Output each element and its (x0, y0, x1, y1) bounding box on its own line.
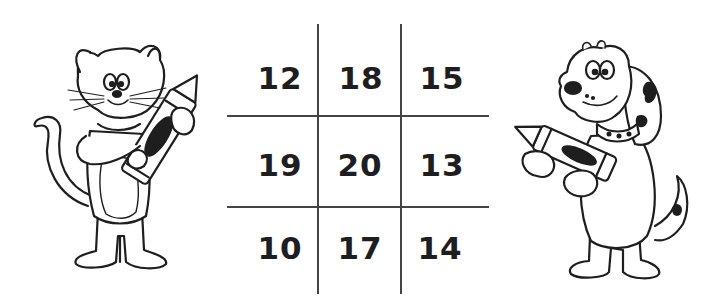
dog-holding-crayon-icon (505, 36, 700, 286)
grid-cell-r1c3: 15 (402, 58, 482, 98)
dog-illustration (505, 36, 700, 286)
number-grid-worksheet: 12 18 15 19 20 13 10 17 14 (0, 0, 723, 308)
cat-holding-crayon-icon (28, 36, 208, 276)
grid-cell-r2c2: 20 (320, 145, 400, 185)
grid-cell-r1c2: 18 (321, 58, 401, 98)
cat-illustration (28, 36, 208, 276)
grid-cell-r3c3: 14 (400, 228, 480, 268)
grid-cell-r3c1: 10 (240, 228, 320, 268)
grid-cell-r2c1: 19 (240, 145, 320, 185)
grid-cell-r1c1: 12 (240, 58, 320, 98)
grid-horizontal-line-2 (227, 206, 489, 208)
grid-horizontal-line-1 (227, 115, 489, 117)
grid-cell-r2c3: 13 (402, 145, 482, 185)
grid-cell-r3c2: 17 (320, 228, 400, 268)
